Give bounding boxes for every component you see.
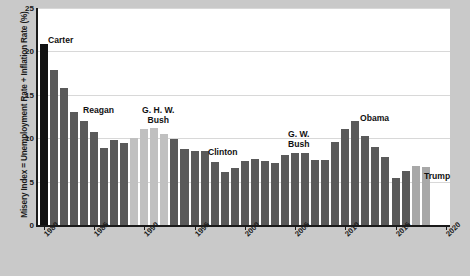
- bar: [261, 161, 269, 225]
- y-tick-label: 20: [4, 47, 34, 56]
- y-axis-line: [36, 8, 38, 227]
- bar: [402, 171, 410, 225]
- y-tick-label: 15: [4, 90, 34, 99]
- y-axis-tick-labels: 0510152025: [0, 0, 34, 276]
- y-tick-label: 0: [4, 221, 34, 230]
- bar: [351, 121, 359, 225]
- bar: [251, 159, 259, 225]
- bar: [150, 128, 158, 225]
- bar: [130, 138, 138, 225]
- bar: [331, 142, 339, 225]
- bar: [191, 151, 199, 225]
- misery-index-chart: Misery Index = Unemployment Rate + Infla…: [0, 0, 470, 276]
- annotation-trump: Trump: [424, 172, 450, 182]
- bar: [60, 88, 68, 225]
- bar: [392, 178, 400, 225]
- bar: [341, 129, 349, 225]
- y-tick-label: 10: [4, 134, 34, 143]
- bar: [281, 155, 289, 225]
- gridline: [38, 138, 450, 139]
- gridline: [38, 51, 450, 52]
- bar: [170, 139, 178, 225]
- y-tick-label: 25: [4, 4, 34, 13]
- bar: [321, 160, 329, 225]
- bar: [381, 157, 389, 225]
- bar: [221, 172, 229, 225]
- gridline: [38, 8, 450, 9]
- bar: [311, 160, 319, 225]
- bar: [120, 143, 128, 225]
- bar: [301, 153, 309, 225]
- gridline: [38, 95, 450, 96]
- bar: [40, 44, 48, 225]
- annotation-clinton: Clinton: [208, 148, 238, 158]
- bar: [211, 162, 219, 225]
- bar: [201, 151, 209, 225]
- bar: [241, 161, 249, 225]
- bar: [100, 148, 108, 225]
- annotation-carter: Carter: [48, 36, 73, 46]
- annotation-gwbush: G. W. Bush: [288, 130, 309, 149]
- bar: [160, 134, 168, 225]
- bar: [231, 168, 239, 225]
- bar: [70, 112, 78, 225]
- bar: [412, 166, 420, 225]
- annotation-ghwbush: G. H. W. Bush: [142, 106, 174, 125]
- bar: [361, 136, 369, 225]
- bar: [291, 153, 299, 225]
- y-tick-label: 5: [4, 177, 34, 186]
- bar: [50, 70, 58, 225]
- annotation-reagan: Reagan: [83, 106, 114, 116]
- bar: [90, 132, 98, 225]
- bar: [80, 121, 88, 225]
- bar: [110, 140, 118, 225]
- bar: [371, 147, 379, 225]
- bar: [140, 129, 148, 225]
- bar: [271, 163, 279, 225]
- bar: [180, 149, 188, 225]
- annotation-obama: Obama: [360, 114, 389, 124]
